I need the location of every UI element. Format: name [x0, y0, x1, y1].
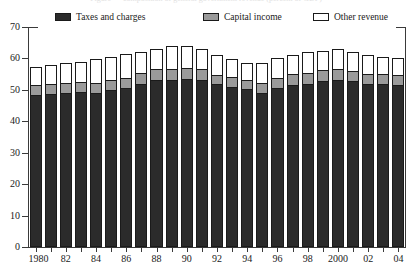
bar-segment-capital-income	[241, 80, 253, 89]
bar-segment-capital-income	[271, 78, 283, 88]
x-axis-tick	[368, 248, 369, 252]
bar-stack[interactable]	[271, 58, 283, 247]
x-axis-tick	[172, 248, 173, 252]
legend-label: Taxes and charges	[76, 10, 145, 24]
x-axis-tick	[157, 248, 158, 252]
legend-label: Capital income	[224, 10, 282, 24]
x-axis-tick	[293, 248, 294, 252]
x-axis-tick	[398, 248, 399, 252]
bar-segment-taxes-and-charges	[135, 84, 147, 247]
bar-segment-capital-income	[377, 74, 389, 84]
bar-segment-taxes-and-charges	[181, 79, 193, 247]
bar-segment-taxes-and-charges	[120, 88, 132, 247]
bar-segment-other-revenue	[105, 57, 117, 80]
bar-segment-taxes-and-charges	[226, 87, 238, 247]
x-axis-tick	[323, 248, 324, 252]
x-axis-tick-label: 96	[272, 253, 282, 265]
bar-segment-capital-income	[90, 83, 102, 93]
x-axis-tick-label: 86	[121, 253, 131, 265]
bar-stack[interactable]	[362, 55, 374, 247]
bar-stack[interactable]	[287, 55, 299, 247]
bar-segment-other-revenue	[332, 49, 344, 68]
bar-segment-other-revenue	[120, 54, 132, 78]
x-axis-tick	[338, 248, 339, 252]
bar-segment-other-revenue	[135, 52, 147, 73]
legend-swatch-icon	[313, 13, 329, 21]
x-axis-tick	[353, 248, 354, 252]
legend-item-taxes-and-charges[interactable]: Taxes and charges	[55, 10, 145, 24]
bar-segment-other-revenue	[60, 63, 72, 83]
bar-segment-other-revenue	[302, 52, 314, 72]
bar-stack[interactable]	[392, 58, 404, 247]
bar-stack[interactable]	[332, 49, 344, 247]
x-axis-tick	[247, 248, 248, 252]
bar-segment-taxes-and-charges	[347, 81, 359, 247]
bar-stack[interactable]	[30, 67, 42, 247]
bar-segment-taxes-and-charges	[75, 92, 87, 247]
chart-legend: Taxes and charges Capital income Other r…	[55, 10, 405, 24]
x-axis-tick	[308, 248, 309, 252]
bar-segment-taxes-and-charges	[196, 80, 208, 248]
bar-stack[interactable]	[317, 51, 329, 247]
bar-stack[interactable]	[75, 62, 87, 247]
bar-segment-capital-income	[150, 69, 162, 80]
x-axis-tick	[202, 248, 203, 252]
bar-segment-capital-income	[317, 70, 329, 81]
y-axis-tick-label: 40	[0, 116, 20, 126]
legend-item-capital-income[interactable]: Capital income	[203, 10, 282, 24]
bar-stack[interactable]	[150, 49, 162, 247]
bar-segment-taxes-and-charges	[317, 81, 329, 247]
bar-stack[interactable]	[241, 63, 253, 247]
bar-stack[interactable]	[377, 57, 389, 247]
bar-segment-capital-income	[211, 75, 223, 84]
bar-segment-capital-income	[302, 73, 314, 84]
bar-stack[interactable]	[211, 55, 223, 247]
bar-stack[interactable]	[302, 52, 314, 247]
x-axis-tick	[262, 248, 263, 252]
bar-segment-capital-income	[60, 83, 72, 93]
bar-segment-capital-income	[120, 78, 132, 88]
x-axis-tick	[111, 248, 112, 252]
bar-segment-taxes-and-charges	[332, 80, 344, 247]
bar-stack[interactable]	[135, 52, 147, 247]
bar-segment-taxes-and-charges	[377, 84, 389, 247]
bar-stack[interactable]	[105, 57, 117, 247]
bar-segment-taxes-and-charges	[287, 85, 299, 247]
bar-segment-capital-income	[256, 83, 268, 93]
bar-stack[interactable]	[90, 59, 102, 247]
bar-stack[interactable]	[256, 63, 268, 247]
bar-stack[interactable]	[45, 65, 57, 247]
legend-item-other-revenue[interactable]: Other revenue	[313, 10, 388, 24]
x-axis-tick-label: 82	[61, 253, 71, 265]
bar-segment-capital-income	[362, 74, 374, 84]
bar-stack[interactable]	[120, 54, 132, 247]
legend-label: Other revenue	[334, 10, 388, 24]
bar-segment-other-revenue	[317, 51, 329, 70]
bar-stack[interactable]	[60, 63, 72, 247]
x-axis-tick-label: 84	[91, 253, 101, 265]
bar-segment-other-revenue	[75, 62, 87, 82]
bar-segment-capital-income	[135, 73, 147, 83]
bar-segment-taxes-and-charges	[271, 88, 283, 247]
plot-area: 010203040506070 198082848688909294969820…	[28, 27, 406, 248]
bar-stack[interactable]	[347, 52, 359, 247]
bar-stack[interactable]	[181, 46, 193, 247]
bar-segment-other-revenue	[90, 59, 102, 83]
bar-segment-taxes-and-charges	[302, 84, 314, 247]
bar-stack[interactable]	[166, 46, 178, 247]
y-axis-tick-label: 0	[0, 242, 20, 252]
bar-series-container	[28, 27, 406, 248]
bar-segment-other-revenue	[287, 55, 299, 74]
bar-stack[interactable]	[196, 49, 208, 247]
y-axis-tick-label: 20	[0, 179, 20, 189]
bar-segment-taxes-and-charges	[30, 95, 42, 247]
bar-segment-other-revenue	[362, 55, 374, 73]
y-axis-tick-label: 10	[0, 211, 20, 221]
bar-segment-capital-income	[75, 82, 87, 92]
bar-stack[interactable]	[226, 59, 238, 247]
bar-segment-capital-income	[45, 84, 57, 94]
bar-segment-capital-income	[30, 85, 42, 94]
bar-segment-other-revenue	[392, 58, 404, 75]
bar-segment-capital-income	[166, 69, 178, 80]
x-axis-tick	[81, 248, 82, 252]
